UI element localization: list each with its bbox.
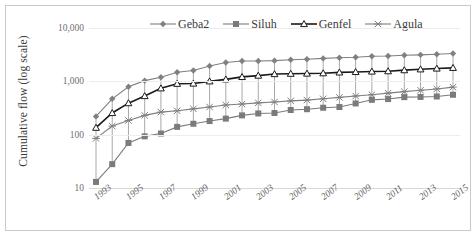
data-point-diamond (174, 69, 180, 75)
y-axis-tick: 100 (40, 130, 84, 140)
data-point-square (93, 179, 99, 185)
data-point-square (109, 161, 115, 167)
data-point-square (450, 92, 456, 98)
data-point-square (233, 21, 239, 27)
y-axis-tick-labels: 101001,00010,000 (40, 0, 84, 236)
data-point-diamond (160, 21, 166, 27)
y-axis-tick: 10,000 (40, 23, 84, 33)
data-point-square (239, 112, 245, 118)
data-point-diamond (336, 55, 342, 61)
data-point-diamond (190, 67, 196, 73)
data-point-diamond (450, 50, 456, 56)
data-point-diamond (206, 63, 212, 69)
data-point-square (369, 97, 375, 103)
data-point-square (255, 110, 261, 116)
data-point-square (401, 94, 407, 100)
data-point-diamond (385, 53, 391, 59)
data-point-square (418, 94, 424, 100)
data-point-square (190, 121, 196, 127)
gridline (89, 81, 460, 82)
data-point-square (207, 118, 213, 124)
data-point-triangle-open (109, 110, 116, 116)
data-point-cross (375, 21, 383, 27)
gridline (89, 135, 460, 136)
data-point-diamond (239, 58, 245, 64)
data-point-diamond (223, 59, 229, 65)
data-point-diamond (304, 56, 310, 62)
gridline (89, 28, 460, 29)
data-point-square (320, 105, 326, 111)
data-point-square (336, 104, 342, 110)
series-lines (89, 28, 460, 188)
data-point-diamond (434, 51, 440, 57)
data-point-square (288, 107, 294, 113)
x-axis-tick-labels: 1993199519971999200120032005200720092011… (89, 190, 460, 232)
data-point-diamond (320, 55, 326, 61)
data-point-diamond (288, 57, 294, 63)
plot-area (89, 28, 460, 188)
data-point-square (174, 124, 180, 130)
data-point-square (434, 93, 440, 99)
data-point-diamond (158, 74, 164, 80)
data-point-diamond (271, 57, 277, 63)
y-axis-label: Cumulative flow (log scale) (17, 16, 29, 186)
data-point-diamond (352, 54, 358, 60)
data-point-diamond (369, 53, 375, 59)
data-point-square (304, 106, 310, 112)
data-point-square (272, 110, 278, 116)
data-point-diamond (255, 58, 261, 64)
data-point-square (385, 96, 391, 102)
y-axis-tick: 10 (40, 183, 84, 193)
data-point-diamond (401, 52, 407, 58)
y-axis-tick: 1,000 (40, 76, 84, 86)
data-point-square (223, 116, 229, 122)
data-point-square (353, 100, 359, 106)
data-point-square (125, 140, 131, 146)
chart-figure: Cumulative flow (log scale) 101001,00010… (0, 0, 476, 236)
data-point-diamond (417, 52, 423, 58)
